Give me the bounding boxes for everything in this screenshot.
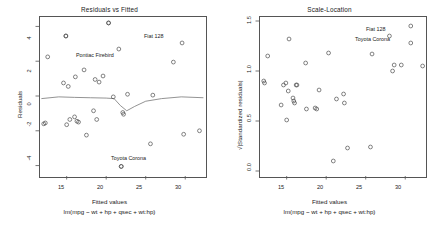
panel-residuals-vs-fitted: Residuals vs Fitted 4 2 0 -2 -4 15 20 25… bbox=[0, 0, 219, 228]
xaxis-title-right: Fitted values bbox=[220, 198, 439, 205]
annotation-fiat128-right: Fiat 128 bbox=[366, 26, 385, 32]
xtick-right-2: 25 bbox=[352, 184, 366, 190]
annotation-toyota-corona-right: Toyota Corona bbox=[355, 36, 390, 42]
annotation-toyota-corona-left: Toyota Corona bbox=[111, 155, 146, 161]
ytick-right-3: 0.0 bbox=[246, 159, 252, 175]
xtick-left-2: 25 bbox=[132, 184, 146, 190]
xaxis-title-left: Fitted values bbox=[0, 198, 219, 205]
xtick-left-1: 20 bbox=[93, 184, 107, 190]
yaxis-title-right: √|Standardized residuals| bbox=[236, 80, 243, 150]
xtick-right-1: 20 bbox=[313, 184, 327, 190]
ytick-left-4: -4 bbox=[26, 151, 32, 165]
xtick-right-3: 30 bbox=[391, 184, 405, 190]
xtick-left-3: 30 bbox=[171, 184, 185, 190]
xaxis-subtitle-right: lm(mpg ~ wt + hp + qsec + wt:hp) bbox=[220, 208, 439, 215]
ytick-left-1: 2 bbox=[26, 65, 32, 77]
plot-canvas-right bbox=[220, 0, 439, 228]
ytick-left-2: 0 bbox=[26, 98, 32, 110]
plot-canvas-left bbox=[0, 0, 219, 228]
ytick-right-0: 1.5 bbox=[246, 12, 252, 28]
ytick-left-0: 4 bbox=[26, 32, 32, 44]
yaxis-title-left: Residuals bbox=[16, 91, 23, 118]
annotation-fiat128-left: Fiat 128 bbox=[144, 33, 163, 39]
xtick-right-0: 15 bbox=[274, 184, 288, 190]
xtick-left-0: 15 bbox=[54, 184, 68, 190]
xaxis-subtitle-left: lm(mpg ~ wt + hp + qsec + wt:hp) bbox=[0, 208, 219, 215]
annotation-pontiac-firebird-left: Pontiac Firebird bbox=[76, 52, 114, 58]
r-diagnostic-plots-figure: Residuals vs Fitted 4 2 0 -2 -4 15 20 25… bbox=[0, 0, 439, 228]
ytick-right-2: 0.5 bbox=[246, 110, 252, 126]
panel-scale-location: Scale-Location 1.5 1.0 0.5 0.0 15 20 25 … bbox=[220, 0, 439, 228]
ytick-right-1: 1.0 bbox=[246, 61, 252, 77]
ytick-left-3: -2 bbox=[26, 117, 32, 131]
